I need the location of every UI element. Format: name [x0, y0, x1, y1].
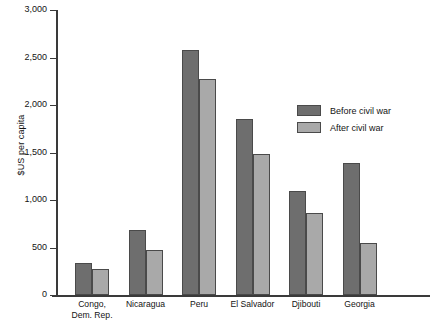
bar-group [182, 10, 216, 295]
bar-group [236, 10, 270, 295]
bar[interactable] [182, 50, 199, 295]
bar-group [75, 10, 109, 295]
bar[interactable] [199, 79, 216, 295]
y-tick-label: 2,000 [24, 99, 47, 109]
y-tick-label: 1,000 [24, 194, 47, 204]
bar[interactable] [306, 213, 323, 295]
y-tick-mark [50, 295, 57, 296]
legend-swatch [297, 105, 321, 116]
bar[interactable] [92, 269, 109, 295]
bar[interactable] [360, 243, 377, 295]
bar-chart: $US per capita 05001,0001,5002,0002,5003… [0, 0, 431, 333]
legend-label: After civil war [330, 123, 384, 133]
bar-groups [56, 10, 422, 295]
bar[interactable] [146, 250, 163, 295]
y-tick-label: 0 [42, 289, 47, 299]
bar[interactable] [75, 263, 92, 295]
bar-group [129, 10, 163, 295]
legend-swatch [297, 122, 321, 133]
legend-item[interactable]: After civil war [297, 121, 422, 134]
chart-legend: Before civil warAfter civil war [297, 104, 422, 138]
bar[interactable] [289, 191, 306, 295]
footer-caption [56, 325, 431, 333]
y-tick-label: 500 [32, 242, 47, 252]
y-tick-label: 1,500 [24, 147, 47, 157]
bar[interactable] [343, 163, 360, 295]
bar-group [343, 10, 377, 295]
y-tick-label: 3,000 [24, 4, 47, 14]
bar[interactable] [253, 154, 270, 295]
legend-item[interactable]: Before civil war [297, 104, 422, 117]
category-label-line: Georgia [317, 299, 403, 310]
category-label-line: Dem. Rep. [49, 310, 135, 321]
plot-area: 05001,0001,5002,0002,5003,000 [56, 10, 422, 295]
y-tick-label: 2,500 [24, 52, 47, 62]
category-label: Georgia [317, 299, 403, 310]
bar[interactable] [129, 230, 146, 295]
x-axis-line [52, 295, 430, 297]
bar-group [289, 10, 323, 295]
legend-label: Before civil war [330, 106, 391, 116]
bar[interactable] [236, 119, 253, 295]
